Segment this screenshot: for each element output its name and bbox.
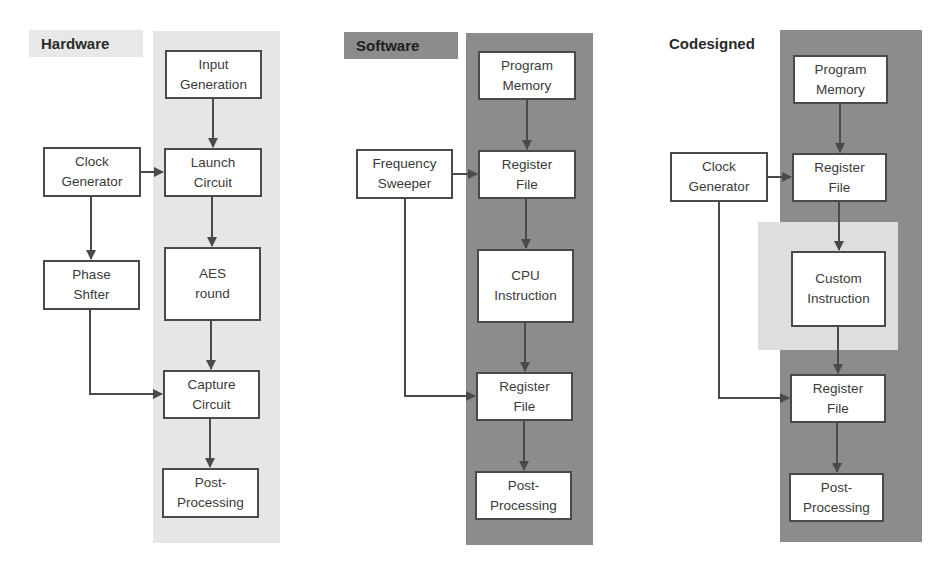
sw-cpu-instruction-node: CPU Instruction xyxy=(477,249,574,323)
hw-clock-generator-node: Clock Generator xyxy=(43,147,141,197)
arrow-hw-phase-to-capture xyxy=(90,310,162,394)
sw-frequency-sweeper-node: Frequency Sweeper xyxy=(356,149,453,199)
co-custom-instruction-node: Custom Instruction xyxy=(791,251,886,327)
co-register-file-2-node: Register File xyxy=(790,374,886,423)
hw-input-generation-node: Input Generation xyxy=(165,50,262,99)
co-clock-generator-node: Clock Generator xyxy=(670,152,768,202)
arrow-sw-sweeper-to-regfile2 xyxy=(405,199,475,396)
sw-post-processing-node: Post- Processing xyxy=(475,471,572,520)
hardware-title: Hardware xyxy=(29,30,143,57)
software-title: Software xyxy=(344,32,458,59)
hw-capture-circuit-node: Capture Circuit xyxy=(163,370,260,419)
codesigned-title: Codesigned xyxy=(658,30,772,57)
co-program-memory-node: Program Memory xyxy=(793,55,888,104)
hw-post-processing-node: Post- Processing xyxy=(162,468,259,518)
hw-aes-round-node: AES round xyxy=(164,247,261,321)
sw-register-file-1-node: Register File xyxy=(478,150,576,199)
sw-program-memory-node: Program Memory xyxy=(478,51,576,100)
co-register-file-1-node: Register File xyxy=(792,153,887,202)
hw-phase-shifter-node: Phase Shfter xyxy=(43,260,140,310)
sw-register-file-2-node: Register File xyxy=(476,372,573,421)
hw-launch-circuit-node: Launch Circuit xyxy=(164,148,262,197)
co-post-processing-node: Post- Processing xyxy=(789,473,884,522)
